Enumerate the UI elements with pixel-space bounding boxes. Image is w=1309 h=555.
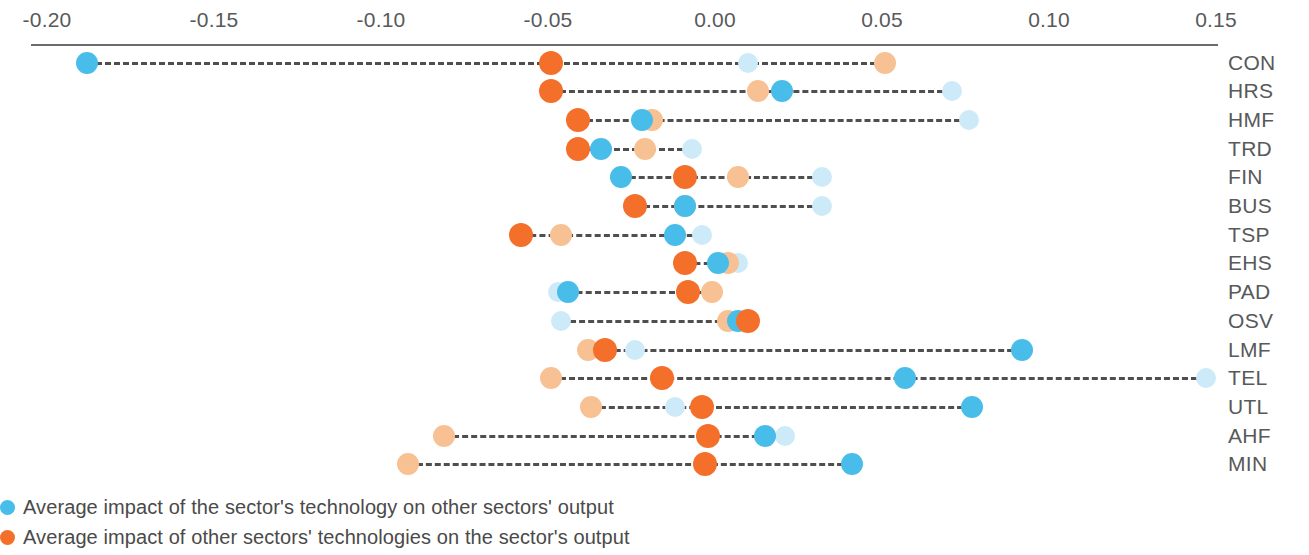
data-point-orange [539,79,563,103]
data-point-orange [696,424,720,448]
chart-row: EHS [0,249,1309,278]
data-point-orange [693,452,717,476]
data-point-orange [566,137,590,161]
chart-row: PAD [0,278,1309,307]
chart-row: AHF [0,421,1309,450]
data-point-lblue [942,81,962,101]
data-point-blue [894,367,916,389]
legend-swatch-orange-icon [0,530,15,545]
data-point-lorange [397,453,419,475]
x-axis-tick-4: 0.00 [694,8,736,32]
data-point-lorange [580,396,602,418]
data-point-orange [566,108,590,132]
data-point-blue [841,453,863,475]
data-point-lorange [874,52,896,74]
data-point-blue [557,281,579,303]
chart-row: LMF [0,335,1309,364]
data-point-lblue [692,225,712,245]
row-label-osv: OSV [1228,309,1273,333]
data-point-orange [676,280,700,304]
x-axis-tick-3: -0.05 [524,8,573,32]
data-point-lorange [433,425,455,447]
row-connector [591,406,972,409]
row-label-hrs: HRS [1228,79,1273,103]
data-point-blue [631,109,653,131]
data-point-lblue [1196,368,1216,388]
data-point-blue [610,166,632,188]
chart-row: TRD [0,134,1309,163]
data-point-lorange [550,224,572,246]
data-point-lblue [738,53,758,73]
data-point-lorange [727,166,749,188]
x-axis-tick-0: -0.20 [23,8,72,32]
data-point-orange [673,165,697,189]
chart-legend: Average impact of the sector's technolog… [0,492,1309,552]
data-point-lblue [775,426,795,446]
data-point-blue [961,396,983,418]
data-point-blue [664,224,686,246]
data-point-lblue [625,340,645,360]
x-axis-tick-7: 0.15 [1195,8,1237,32]
data-point-lblue [812,196,832,216]
row-connector [408,463,852,466]
legend-item-blue: Average impact of the sector's technolog… [0,492,1309,522]
data-point-lorange [634,138,656,160]
x-axis-tick-5: 0.05 [861,8,903,32]
data-point-lorange [540,367,562,389]
row-label-ehs: EHS [1228,251,1272,275]
chart-row: UTL [0,392,1309,421]
data-point-orange [650,366,674,390]
plot-area: CONHRSHMFTRDFINBUSTSPEHSPADOSVLMFTELUTLA… [0,48,1309,488]
chart-row: HRS [0,77,1309,106]
row-connector [635,205,822,208]
chart-row: TEL [0,364,1309,393]
data-point-orange [539,51,563,75]
legend-label-orange: Average impact of other sectors' technol… [23,526,630,549]
row-label-bus: BUS [1228,194,1272,218]
row-label-utl: UTL [1228,395,1269,419]
data-point-lblue [812,167,832,187]
row-label-con: CON [1228,51,1276,75]
chart-row: CON [0,48,1309,77]
chart-row: FIN [0,163,1309,192]
data-point-orange [690,395,714,419]
data-point-blue [1011,339,1033,361]
dumbbell-chart: -0.20-0.15-0.10-0.050.000.050.100.15 CON… [0,0,1309,555]
data-point-lblue [551,311,571,331]
x-axis-tick-labels: -0.20-0.15-0.10-0.050.000.050.100.15 [0,0,1309,40]
data-point-blue [707,252,729,274]
data-point-orange [593,338,617,362]
data-point-lblue [665,397,685,417]
data-point-blue [590,138,612,160]
data-point-orange [509,223,533,247]
data-point-blue [76,52,98,74]
chart-row: OSV [0,306,1309,335]
legend-item-orange: Average impact of other sectors' technol… [0,522,1309,552]
data-point-lblue [682,139,702,159]
row-label-ahf: AHF [1228,424,1271,448]
x-axis-line [31,44,1218,46]
legend-label-blue: Average impact of the sector's technolog… [23,496,614,519]
x-axis-tick-2: -0.10 [357,8,406,32]
legend-swatch-blue-icon [0,500,15,515]
chart-row: TSP [0,220,1309,249]
data-point-orange [623,194,647,218]
row-connector [444,435,785,438]
chart-row: MIN [0,450,1309,479]
row-label-hmf: HMF [1228,108,1274,132]
data-point-blue [771,80,793,102]
data-point-lorange [701,281,723,303]
row-connector [588,349,1022,352]
row-connector [87,62,885,65]
data-point-lorange [747,80,769,102]
chart-row: HMF [0,105,1309,134]
row-label-lmf: LMF [1228,338,1271,362]
data-point-lblue [959,110,979,130]
x-axis-tick-6: 0.10 [1028,8,1070,32]
data-point-blue [674,195,696,217]
data-point-blue [754,425,776,447]
data-point-orange [673,251,697,275]
row-label-tsp: TSP [1228,223,1270,247]
row-label-min: MIN [1228,452,1267,476]
row-label-fin: FIN [1228,165,1263,189]
